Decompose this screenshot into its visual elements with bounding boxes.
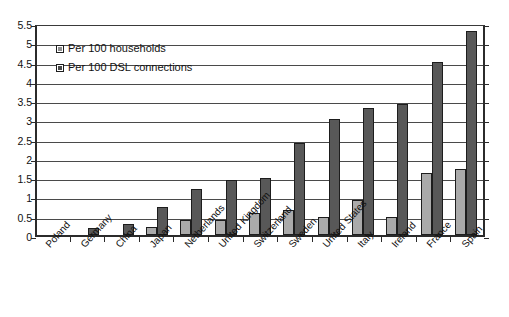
y-tick-mark-right — [484, 122, 489, 123]
bar-group — [414, 26, 448, 235]
y-tick-mark-left — [31, 180, 36, 181]
y-tick-mark-right — [484, 199, 489, 200]
bar-dark — [432, 62, 443, 235]
y-tick-label: 4 — [0, 78, 32, 89]
bar-chart: 5.554.543.532.521.510.50 PolandGermanyCh… — [0, 0, 509, 317]
y-tick-mark-left — [31, 103, 36, 104]
bar-group — [312, 26, 346, 235]
y-tick-mark-right — [484, 65, 489, 66]
legend-swatch-icon-dsl-connections — [56, 64, 64, 72]
bar-group — [380, 26, 414, 235]
y-tick-mark-left — [31, 219, 36, 220]
y-tick-mark-right — [484, 161, 489, 162]
y-tick-mark-left — [31, 26, 36, 27]
y-tick-label: 0.5 — [0, 212, 32, 223]
y-tick-label: 4.5 — [0, 58, 32, 69]
x-axis-category-labels: PolandGermanyChinaJapanNetherlandsUnited… — [35, 243, 485, 317]
bar-dark — [329, 119, 340, 235]
bar-light — [386, 217, 397, 236]
legend-label-households: Per 100 households — [68, 43, 166, 54]
x-tick-mark — [312, 237, 313, 242]
y-tick-mark-right — [484, 45, 489, 46]
y-tick-label: 3 — [0, 116, 32, 127]
y-tick-label: 1 — [0, 193, 32, 204]
x-tick-mark — [173, 237, 174, 242]
y-tick-mark-left — [31, 199, 36, 200]
x-tick-mark — [347, 237, 348, 242]
x-tick-mark — [450, 237, 451, 242]
y-tick-mark-left — [31, 84, 36, 85]
legend-swatch-icon-households — [56, 45, 64, 53]
legend-entry-dsl-connections: Per 100 DSL connections — [56, 62, 192, 73]
x-tick-mark — [104, 237, 105, 242]
legend-entry-households: Per 100 households — [56, 43, 192, 54]
y-tick-mark-left — [31, 122, 36, 123]
bar-group — [209, 26, 243, 235]
y-tick-mark-right — [484, 142, 489, 143]
y-tick-label: 5 — [0, 39, 32, 50]
y-tick-mark-right — [484, 180, 489, 181]
x-tick-mark — [208, 237, 209, 242]
bar-light — [455, 169, 466, 235]
y-tick-mark-left — [31, 65, 36, 66]
y-tick-mark-left — [31, 45, 36, 46]
x-tick-mark — [243, 237, 244, 242]
bar-light — [318, 217, 329, 236]
y-tick-label: 0 — [0, 232, 32, 243]
x-tick-mark — [277, 237, 278, 242]
y-tick-mark-right — [484, 84, 489, 85]
y-tick-label: 5.5 — [0, 20, 32, 31]
bar-dark — [466, 31, 477, 235]
legend-label-dsl-connections: Per 100 DSL connections — [68, 62, 192, 73]
bar-dark — [363, 108, 374, 235]
y-tick-mark-right — [484, 103, 489, 104]
bar-group — [449, 26, 483, 235]
bar-light — [421, 173, 432, 235]
y-tick-label: 1.5 — [0, 174, 32, 185]
y-tick-mark-right — [484, 219, 489, 220]
y-tick-mark-right — [484, 26, 489, 27]
y-tick-label: 2 — [0, 155, 32, 166]
x-tick-mark — [381, 237, 382, 242]
y-tick-label: 2.5 — [0, 135, 32, 146]
bar-dark — [397, 104, 408, 235]
x-tick-mark — [70, 237, 71, 242]
x-tick-mark — [416, 237, 417, 242]
y-tick-mark-left — [31, 161, 36, 162]
x-tick-mark — [139, 237, 140, 242]
y-tick-label: 3.5 — [0, 97, 32, 108]
y-axis-tick-labels: 5.554.543.532.521.510.50 — [0, 18, 32, 238]
chart-legend: Per 100 households Per 100 DSL connectio… — [56, 43, 192, 73]
bar-group — [277, 26, 311, 235]
y-tick-mark-left — [31, 142, 36, 143]
